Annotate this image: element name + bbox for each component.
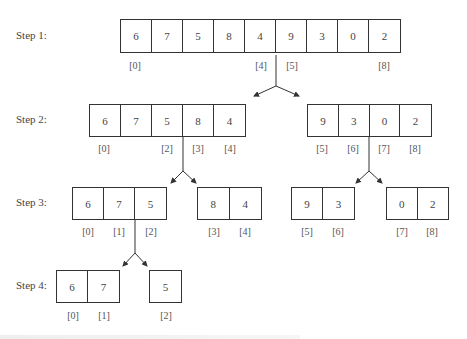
cut-off-caption — [0, 335, 300, 339]
split-arrows — [0, 0, 467, 339]
